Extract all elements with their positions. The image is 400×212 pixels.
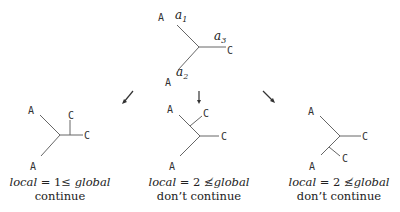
leaf-label-bottom: A bbox=[165, 77, 171, 88]
edge-label-a1: a1 bbox=[175, 8, 187, 24]
caption-decision: continue bbox=[35, 189, 86, 203]
edge-label-a3: a3 bbox=[214, 29, 226, 45]
leaf-label-bottom: A bbox=[30, 161, 36, 172]
leaf-label-c2: C bbox=[342, 153, 348, 164]
leaf-label-c2: C bbox=[84, 130, 90, 141]
leaf-label-bottom: A bbox=[169, 161, 175, 172]
child-tree-3: A C C A local = 2 ≰global don’t continue bbox=[289, 106, 390, 203]
child-tree-2: A C C A local = 2 ≰global don’t continue bbox=[149, 104, 250, 203]
leaf-label-bottom: A bbox=[309, 161, 315, 172]
leaf-label-c1: C bbox=[68, 110, 74, 121]
leaf-label-top: A bbox=[167, 104, 173, 115]
child-tree-1: A C C A local = 1≤ global continue bbox=[10, 105, 111, 203]
tree-insertion-diagram: A a1 a3 C a2 A A C C A local = 1≤ global… bbox=[0, 0, 400, 212]
leaf-label-c2: C bbox=[221, 131, 227, 142]
caption-formula: local = 1≤ global bbox=[10, 175, 111, 189]
leaf-label-c1: C bbox=[362, 131, 368, 142]
caption-formula: local = 2 ≰global bbox=[289, 175, 390, 189]
caption-decision: don’t continue bbox=[297, 189, 382, 203]
edge-label-a2: a2 bbox=[176, 65, 188, 81]
arrows bbox=[122, 91, 275, 104]
leaf-label-top: A bbox=[28, 105, 34, 116]
caption-formula: local = 2 ≰global bbox=[149, 175, 250, 189]
leaf-label-right: C bbox=[227, 45, 233, 56]
leaf-label-c1: C bbox=[203, 108, 209, 119]
root-tree: A a1 a3 C a2 A bbox=[158, 8, 233, 88]
leaf-label-top: A bbox=[158, 12, 164, 23]
caption-decision: don’t continue bbox=[157, 189, 242, 203]
leaf-label-top: A bbox=[308, 106, 314, 117]
edge-a1 bbox=[177, 25, 199, 47]
